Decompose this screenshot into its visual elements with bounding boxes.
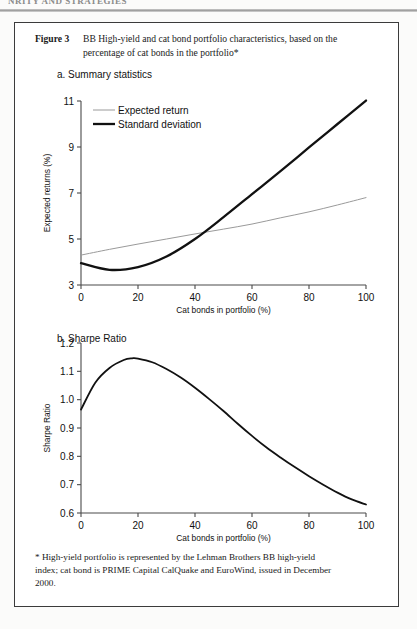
- y-axis-tick-label: 3: [68, 280, 74, 291]
- series-line: [81, 198, 366, 256]
- legend-label: Standard deviation: [118, 119, 201, 130]
- y-axis-tick-label: 11: [64, 96, 75, 107]
- footnote-line-2: index; cat bond is PRIME Capital CalQuak…: [35, 564, 383, 577]
- y-axis-title: Expected returns (%): [42, 153, 52, 232]
- x-axis-tick-label: 0: [78, 292, 84, 303]
- y-axis-tick-label: 5: [68, 234, 74, 245]
- x-axis-tick-label: 60: [246, 292, 258, 303]
- page-canvas: NRITY AND STRATEGIES Figure 3BB High-yie…: [0, 0, 417, 629]
- footnote-divider: [15, 543, 398, 544]
- chart-summary-statistics: 357911020406080100Cat bonds in portfolio…: [15, 23, 400, 608]
- legend-label: Expected return: [118, 105, 189, 116]
- x-axis-tick-label: 20: [132, 292, 144, 303]
- x-axis-title: Cat bonds in portfolio (%): [176, 305, 271, 315]
- footnote-line-1: * High-yield portfolio is represented by…: [35, 551, 383, 564]
- y-axis-tick-label: 9: [68, 142, 74, 153]
- running-head: NRITY AND STRATEGIES: [8, 0, 127, 4]
- x-axis-tick-label: 40: [189, 292, 201, 303]
- x-axis-tick-label: 80: [303, 292, 315, 303]
- footnote-line-3: 2000.: [35, 577, 383, 590]
- figure-container: Figure 3BB High-yield and cat bond portf…: [14, 22, 399, 607]
- header-rule: [0, 9, 417, 12]
- x-axis-tick-label: 100: [358, 292, 375, 303]
- y-axis-tick-label: 7: [68, 188, 74, 199]
- figure-footnote: * High-yield portfolio is represented by…: [35, 551, 383, 590]
